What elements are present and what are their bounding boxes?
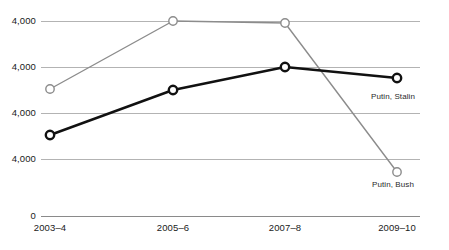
data-point-marker[interactable] <box>393 74 401 82</box>
series-label: Putin, Stalin <box>371 92 415 101</box>
data-point-marker[interactable] <box>169 86 177 94</box>
data-point-marker[interactable] <box>169 17 177 25</box>
y-axis-tick-label: 4,000 <box>0 107 36 118</box>
series-line <box>50 21 397 172</box>
x-axis-tick-label: 2007–8 <box>245 222 325 233</box>
y-axis-tick-label: 4,000 <box>0 15 36 26</box>
y-axis-tick-label: 4,000 <box>0 153 36 164</box>
x-axis-tick-label: 2005–6 <box>133 222 213 233</box>
series-markers <box>46 17 401 176</box>
y-axis-tick-label: 4,000 <box>0 61 36 72</box>
data-point-marker[interactable] <box>281 63 289 71</box>
y-axis-tick-label: 0 <box>0 210 36 221</box>
data-point-marker[interactable] <box>281 19 289 27</box>
x-axis-tick-label: 2003–4 <box>10 222 90 233</box>
series-line <box>50 67 397 135</box>
chart-canvas <box>0 0 449 250</box>
data-point-marker[interactable] <box>46 85 54 93</box>
gridlines <box>41 22 420 217</box>
data-point-marker[interactable] <box>46 131 54 139</box>
series-lines <box>50 21 397 172</box>
series-label: Putin, Bush <box>372 180 414 189</box>
x-axis-tick-label: 2009–10 <box>357 222 437 233</box>
data-point-marker[interactable] <box>393 168 401 176</box>
line-chart: 4,0004,0004,0004,0000 2003–42005–62007–8… <box>0 0 449 250</box>
